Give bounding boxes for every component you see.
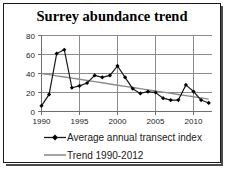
chart-plot-area: 80 60 40 20 0 1990 1995 2000 2005 2010 <box>4 4 220 162</box>
legend-item-trend: Trend 1990-2012 <box>44 150 144 161</box>
x-tick-label: 1995 <box>71 117 89 126</box>
data-point-marker <box>100 75 104 79</box>
frame-shadow-bottom <box>6 164 223 166</box>
gridlines-horizontal <box>39 36 212 112</box>
legend-label-average-index: Average annual transect index <box>67 132 202 143</box>
y-tick-label: 0 <box>31 108 36 117</box>
chart-legend: Average annual transect index Trend 1990… <box>44 132 202 161</box>
y-tick-label: 80 <box>26 32 35 41</box>
x-axis <box>39 112 212 116</box>
frame-shadow-right <box>221 6 223 166</box>
y-axis-tick-labels: 80 60 40 20 0 <box>26 32 35 117</box>
data-point-marker <box>176 98 180 102</box>
y-axis-ticks <box>38 36 42 112</box>
legend-item-average-index: Average annual transect index <box>44 132 202 143</box>
y-tick-label: 40 <box>26 70 35 79</box>
data-point-marker <box>169 98 173 102</box>
legend-diamond-marker-icon <box>52 135 58 141</box>
data-point-marker <box>55 51 59 55</box>
data-point-marker <box>77 84 81 88</box>
data-point-marker <box>207 101 211 105</box>
x-tick-label: 2005 <box>147 117 165 126</box>
x-tick-label: 2000 <box>109 117 127 126</box>
legend-label-trend: Trend 1990-2012 <box>67 150 144 161</box>
data-point-marker <box>62 48 66 52</box>
x-axis-tick-labels: 1990 1995 2000 2005 2010 <box>33 117 203 126</box>
y-tick-label: 20 <box>26 89 35 98</box>
x-tick-label: 2010 <box>185 117 203 126</box>
figure-frame: Surrey abundance trend 80 <box>3 3 221 163</box>
data-point-marker <box>70 86 74 90</box>
x-tick-label: 1990 <box>33 117 51 126</box>
y-tick-label: 60 <box>26 51 35 60</box>
